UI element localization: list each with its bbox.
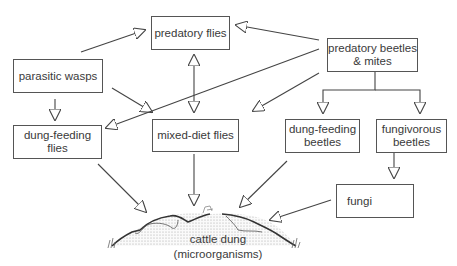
dung-feeding-beetles-label-line2: beetles	[304, 136, 341, 149]
dung-feeding-beetles-label-line1: dung-feeding	[289, 123, 356, 136]
cattle-dung-label-line2: (microorganisms)	[168, 247, 268, 262]
arrow-dung-beetles-to-dung	[240, 161, 287, 207]
branch-beetles-split-right	[375, 90, 420, 113]
predatory-beetles-label-line2: & mites	[353, 55, 391, 68]
arrow-beetles-to-dung-feeding-flies	[106, 49, 319, 128]
node-mixed-diet-flies: mixed-diet flies	[152, 119, 239, 152]
predatory-flies-label: predatory flies	[154, 27, 226, 40]
arrow-dung-flies-to-dung	[98, 164, 146, 212]
arrow-wasps-to-predatory-flies	[81, 30, 145, 52]
dung-feeding-flies-label: dung-feeding flies	[14, 129, 101, 155]
node-predatory-flies: predatory flies	[151, 16, 230, 50]
fungivorous-beetles-label-line1: fungivorous	[382, 123, 441, 136]
parasitic-wasps-label: parasitic wasps	[19, 70, 98, 83]
arrow-fungi-to-dung	[270, 200, 331, 220]
arrow-beetles-to-mixed-diet-flies	[253, 73, 319, 111]
mixed-diet-flies-label: mixed-diet flies	[157, 129, 234, 142]
node-parasitic-wasps: parasitic wasps	[13, 59, 103, 93]
arrow-beetles-to-predatory-flies	[236, 25, 319, 40]
branch-beetles-split	[323, 72, 375, 113]
arrow-wasps-to-mixed-diet-flies	[112, 88, 152, 112]
node-dung-feeding-flies: dung-feeding flies	[13, 125, 102, 159]
node-predatory-beetles-mites: predatory beetles & mites	[327, 38, 418, 72]
cattle-dung-label-line1: cattle dung	[168, 232, 268, 247]
cattle-dung-label: cattle dung (microorganisms)	[168, 232, 268, 262]
predatory-beetles-label-line1: predatory beetles	[328, 42, 417, 55]
fungivorous-beetles-label-line2: beetles	[393, 136, 430, 149]
node-fungi: fungi	[336, 184, 414, 218]
node-dung-feeding-beetles: dung-feeding beetles	[285, 119, 360, 153]
node-fungivorous-beetles: fungivorous beetles	[376, 119, 447, 153]
fungi-label: fungi	[347, 195, 372, 208]
